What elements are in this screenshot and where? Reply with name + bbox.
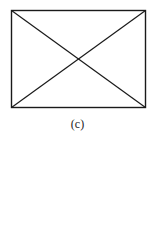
figure-caption: (c) bbox=[0, 117, 155, 132]
